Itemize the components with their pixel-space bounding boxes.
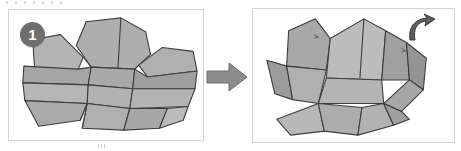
- facet-bottom-mid-flap: [318, 104, 362, 136]
- facet-front-center: [326, 19, 385, 80]
- figure-root: 1: [0, 0, 461, 151]
- page-caption-mark: [98, 144, 106, 148]
- step-badge-1: 1: [20, 22, 45, 47]
- facet-top-petal: [76, 18, 150, 69]
- fold-arrow-shape: [410, 14, 435, 40]
- arrow-right-icon: [207, 63, 247, 91]
- scan-artifact-band: [0, 0, 461, 7]
- facet-right-lower-band: [130, 89, 195, 109]
- curved-fold-arrow-icon: [403, 13, 437, 43]
- step-2-panel: 2: [252, 8, 455, 143]
- facet-inner-band: [318, 78, 383, 104]
- facet-back-left-upper: [287, 19, 331, 70]
- facet-bottom-left-flap: [277, 104, 325, 136]
- step-transition-arrow: [205, 60, 249, 94]
- facet-bottom-mid-left-petal: [82, 104, 130, 131]
- facet-bottom-left-petal: [25, 101, 87, 127]
- facet-left-upper-band: [23, 66, 91, 85]
- step-1-panel: 1: [8, 9, 204, 141]
